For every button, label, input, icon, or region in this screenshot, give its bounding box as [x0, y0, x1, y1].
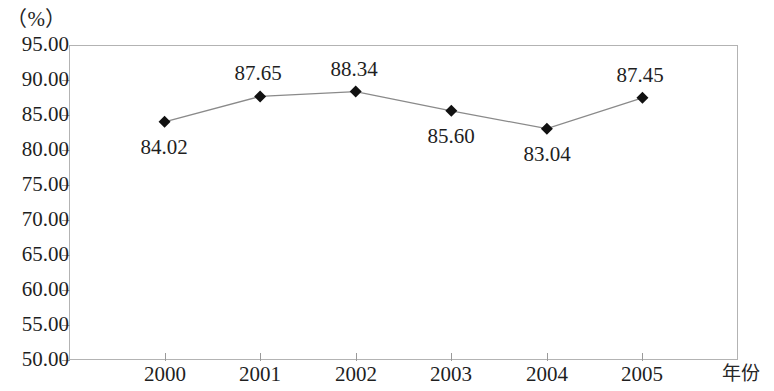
data-point-marker	[254, 90, 266, 102]
data-point-label: 87.65	[213, 63, 303, 84]
data-point-label: 87.45	[595, 65, 685, 86]
data-point-label: 83.04	[502, 144, 592, 165]
data-point-marker	[541, 123, 553, 135]
series-markers	[159, 86, 649, 135]
data-point-label: 88.34	[309, 59, 399, 80]
x-axis-title: 年份	[722, 358, 760, 385]
data-point-label: 84.02	[119, 137, 209, 158]
line-chart: （%） 95.0090.0085.0080.0075.0070.0065.006…	[0, 0, 774, 391]
data-point-marker	[350, 86, 362, 98]
data-point-marker	[636, 92, 648, 104]
data-point-marker	[445, 105, 457, 117]
data-point-label: 85.60	[406, 126, 496, 147]
data-point-marker	[159, 116, 171, 128]
series-line	[165, 92, 643, 129]
